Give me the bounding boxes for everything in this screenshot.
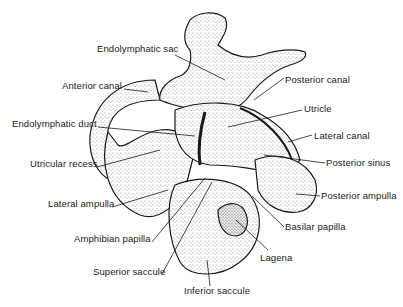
label-inferior-saccule: Inferior saccule	[184, 285, 250, 296]
posterior-ampulla-shape	[255, 156, 316, 212]
label-utricular-recess: Utricular recess	[30, 158, 98, 169]
endolymphatic-sac-shape	[160, 13, 306, 113]
label-posterior-ampulla: Posterior ampulla	[321, 190, 397, 201]
label-lateral-canal: Lateral canal	[314, 130, 370, 141]
label-amphibian-papilla: Amphibian papilla	[74, 233, 151, 244]
label-anterior-canal: Anterior canal	[62, 80, 122, 91]
inner-ear-diagram: Endolymphatic sac Anterior canal Endolym…	[0, 0, 403, 307]
label-utricle: Utricle	[304, 103, 332, 114]
label-posterior-sinus: Posterior sinus	[326, 157, 390, 168]
label-basilar-papilla: Basilar papilla	[285, 221, 346, 232]
anatomy-illustration	[0, 0, 403, 307]
label-endolymphatic-sac: Endolymphatic sac	[97, 43, 178, 54]
label-superior-saccule: Superior saccule	[93, 266, 165, 277]
label-posterior-canal: Posterior canal	[285, 74, 350, 85]
label-endolymphatic-duct: Endolymphatic duct	[12, 118, 97, 129]
label-lagena: Lagena	[260, 252, 292, 263]
label-lateral-ampulla: Lateral ampulla	[48, 198, 114, 209]
